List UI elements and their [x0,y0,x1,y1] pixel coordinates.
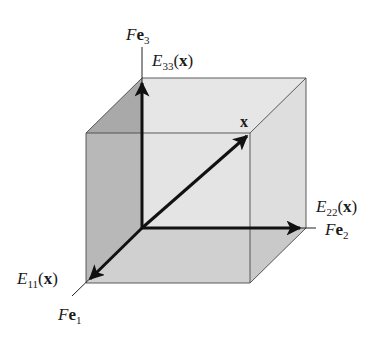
label-fe3: Fe3 [125,25,150,46]
label-x: x [240,113,248,130]
label-fe2: Fe2 [324,220,348,241]
label-e22: E22(x) [315,197,357,218]
label-e11: E11(x) [16,269,58,290]
cube-diagram: Fe3 E33(x) x E22(x) Fe2 E11(x) Fe1 [0,0,392,345]
label-e33: E33(x) [151,51,193,72]
label-fe1: Fe1 [57,305,81,326]
